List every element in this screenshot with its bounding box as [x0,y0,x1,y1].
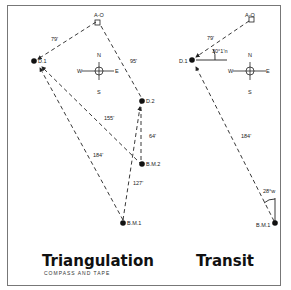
compass-rose-right [233,62,266,80]
ao-label-right: A-O [245,12,256,18]
dist-d1-bm1-right: 184' [241,133,251,139]
d1-point-left [31,58,37,64]
angle-at-d1: 30°1'n [212,48,228,54]
bm2-label: B.M.2 [146,161,160,167]
ao-label-left: A-O [94,12,105,18]
triangulation-title: Triangulation [42,252,154,270]
dist-d1-bm1-left: 184' [93,152,103,158]
dist-ao-d2: 95' [130,58,137,64]
compass-n-left: N [97,52,101,58]
bm1-point-right [272,220,278,226]
compass-e-left: E [115,68,119,74]
dist-d1-bm2: 155' [104,115,114,121]
bm1-label-right: B.M.1 [256,222,270,228]
compass-s-left: S [97,89,101,95]
compass-w-left: W [77,68,83,74]
compass-e-right: E [266,68,270,74]
dist-bm2-bm1: 127' [133,180,143,186]
dist-d1-ao-right: 79' [207,35,214,41]
transit-title: Transit [196,252,254,270]
compass-rose-left [82,62,114,80]
d1-point-right [189,57,195,63]
d2-point [139,98,145,104]
compass-w-right: W [228,68,234,74]
bm1-label-left: B.M.1 [127,220,141,226]
compass-n-right: N [248,52,252,58]
compass-s-right: S [248,89,252,95]
survey-diagram: A-O D.1 D.2 B.M.2 B.M.1 79' 95' 155' 64'… [0,0,291,290]
bm2-point [139,161,145,167]
dist-d2-bm2: 64' [149,133,156,139]
triangulation-subtitle: COMPASS AND TAPE [44,270,110,276]
d1-label-right: D.1 [179,58,188,64]
angle-at-bm1: 28°w [263,188,275,194]
triangulation-lines [38,22,142,220]
dist-d1-ao-left: 79' [51,36,58,42]
d2-label: D.2 [146,98,155,104]
bm1-point-left [120,220,126,226]
d1-label-left: D.1 [38,58,47,64]
